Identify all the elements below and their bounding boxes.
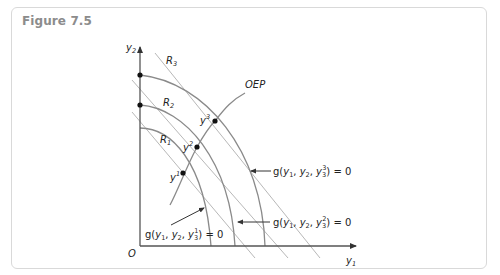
label-y2: y2 (182, 140, 193, 153)
point-y3 (212, 118, 217, 123)
label-r2: R2 (163, 97, 174, 110)
frontier-2-label: g(y1, y2, y32) = 0 (273, 215, 351, 230)
point-y2 (194, 144, 199, 149)
arrow-frontier-1 (171, 208, 204, 225)
oep-label: OEP (245, 79, 266, 90)
label-r1: R1 (160, 134, 171, 147)
frontier-2 (140, 105, 235, 246)
label-y1: y1 (169, 170, 180, 183)
label-r3: R3 (166, 55, 177, 68)
origin-label: O (128, 248, 136, 259)
label-y3: y3 (199, 113, 210, 126)
frontier-1-label: g(y1, y2, y31) = 0 (145, 227, 223, 242)
y-axis-label: y2 (125, 42, 136, 55)
production-diagram: y2 y1 O R3 R2 R1 OEP y3 y2 y1 g(y1, y2, … (0, 0, 500, 275)
output-expansion-path (170, 93, 245, 205)
frontier-3-label: g(y1, y2, y33) = 0 (273, 164, 351, 179)
point-y1 (180, 170, 185, 175)
y-axis-point-upper (137, 72, 142, 77)
y-axis-point-lower (137, 102, 142, 107)
x-axis-label: y1 (345, 255, 356, 268)
